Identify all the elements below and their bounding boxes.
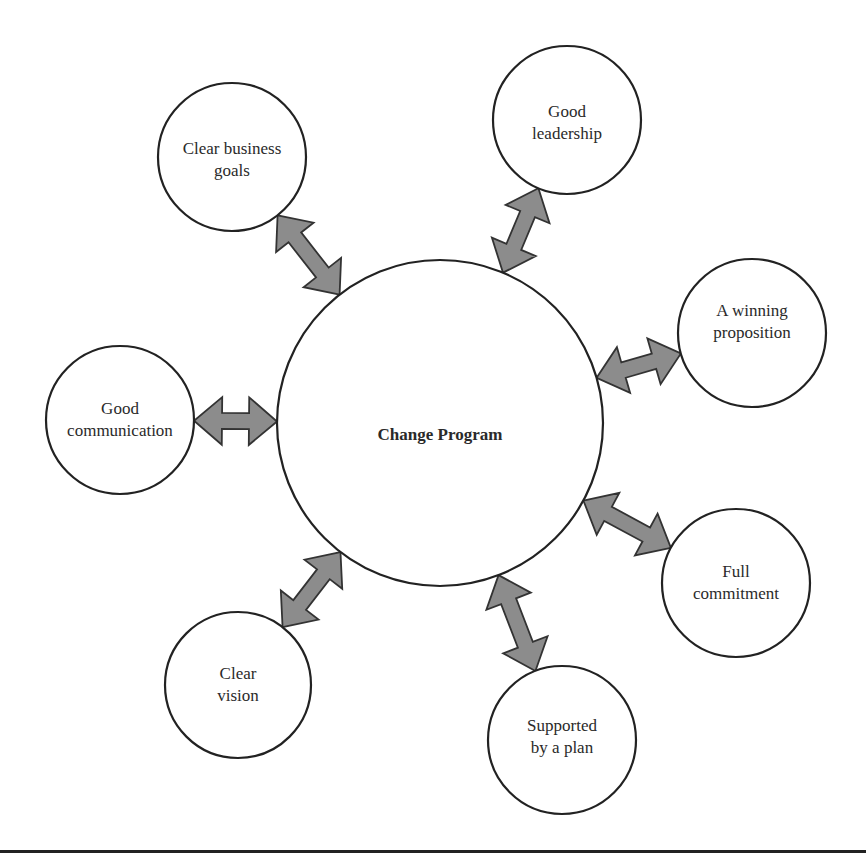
- center-node-circle: [277, 260, 603, 586]
- node-label-good-leadership: Good leadership: [532, 101, 602, 145]
- double-arrow-icon-good-leadership: [481, 179, 560, 282]
- double-arrow-icon-supported-by-a-plan: [476, 567, 557, 680]
- footer-rule: [0, 850, 866, 853]
- node-label-clear-business-goals: Clear business goals: [183, 138, 282, 182]
- node-label-good-communication: Good communication: [67, 398, 173, 442]
- node-label-full-commitment: Full commitment: [693, 561, 779, 605]
- node-label-a-winning-proposition: A winning proposition: [713, 300, 790, 344]
- node-label-supported-by-a-plan: Supported by a plan: [527, 715, 597, 759]
- center-node-label: Change Program: [378, 424, 503, 446]
- double-arrow-icon-good-communication: [194, 397, 277, 445]
- node-label-clear-vision: Clear vision: [217, 663, 259, 707]
- double-arrow-icon-full-commitment: [572, 480, 682, 569]
- double-arrow-icon-a-winning-proposition: [590, 331, 687, 401]
